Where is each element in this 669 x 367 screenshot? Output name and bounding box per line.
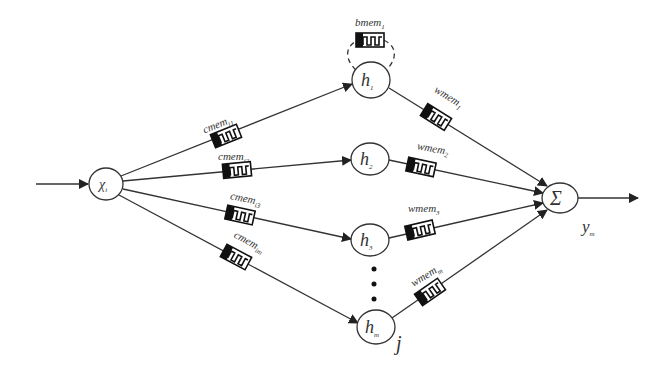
memristor-wmem-2 [406,157,436,177]
label-wmem-2: wmem2 [416,139,450,159]
label-index-j: j [393,332,402,355]
node-input: χi [89,168,123,200]
label-output: ym [580,217,595,238]
node-h3: h3 [351,224,389,256]
memristor-network-diagram: bmem1 cmemi1 cmemi2 cmemi3 cmemim wmem1 … [0,0,669,367]
svg-text:Σ: Σ [549,187,562,209]
node-h1: h1 [352,62,390,98]
memristor-cmem-i3 [225,205,255,225]
node-h2: h2 [351,143,389,175]
node-sum: Σ [542,183,578,213]
memristor-wmem-1 [420,104,451,131]
memristor-wmem-3 [405,220,435,240]
memristor-cmem-im [220,244,251,270]
node-hm: hm [357,310,395,344]
memristor-bias [356,33,384,47]
label-bmem: bmem1 [355,16,385,31]
ellipsis-dots [372,267,377,302]
label-wmem-3: wmem3 [408,202,440,217]
